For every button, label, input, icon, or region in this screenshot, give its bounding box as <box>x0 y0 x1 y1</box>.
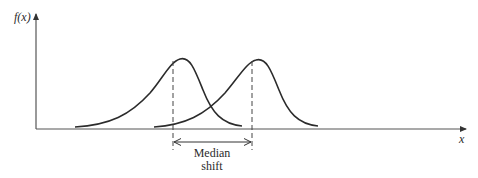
original-distribution-curve <box>75 59 242 127</box>
annotation-line-1: Median <box>194 146 231 160</box>
y-axis-label: f(x) <box>14 10 31 24</box>
shifted-distribution-curve <box>154 60 318 127</box>
x-axis-label: x <box>458 132 465 146</box>
annotation-line-2: shift <box>201 159 223 173</box>
median-shift-diagram: f(x) x Median shift <box>0 0 478 178</box>
